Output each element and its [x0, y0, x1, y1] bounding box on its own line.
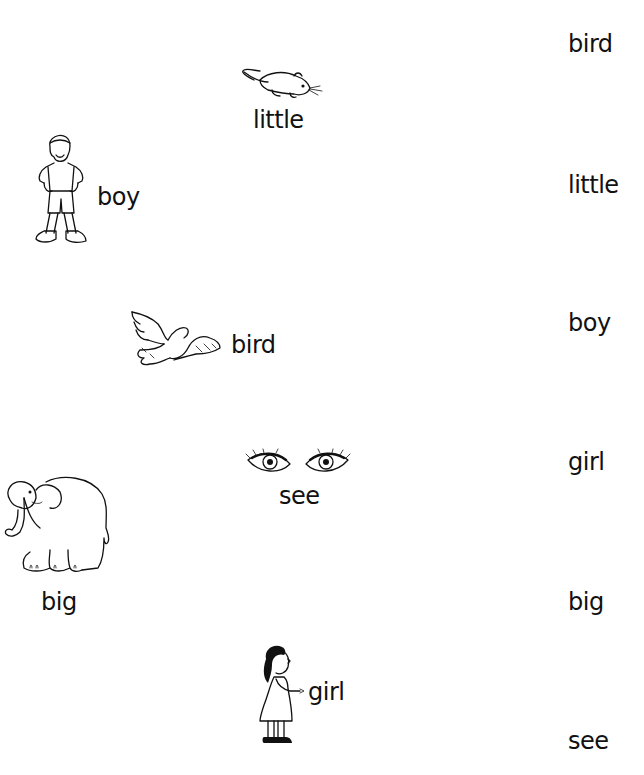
match-word-girl[interactable]: girl [568, 450, 604, 474]
match-word-see[interactable]: see [568, 729, 609, 753]
girl-picture [256, 645, 306, 747]
boy-icon [32, 133, 90, 245]
word-girl: girl [308, 680, 344, 704]
word-little: little [253, 108, 304, 132]
match-word-bird[interactable]: bird [568, 32, 613, 56]
bird-picture [130, 308, 222, 368]
match-word-big[interactable]: big [568, 590, 604, 614]
elephant-picture [2, 476, 112, 576]
bird-icon [130, 308, 222, 368]
word-bird: bird [231, 333, 276, 357]
word-big: big [41, 590, 77, 614]
match-word-little[interactable]: little [568, 173, 619, 197]
mouse-picture [238, 66, 322, 104]
word-see: see [279, 484, 320, 508]
eyes-picture [246, 450, 350, 478]
mouse-icon [238, 66, 322, 104]
word-boy: boy [97, 185, 140, 209]
boy-picture [32, 133, 90, 245]
match-word-boy[interactable]: boy [568, 311, 611, 335]
elephant-icon [2, 476, 112, 576]
eyes-icon [246, 450, 350, 478]
girl-icon [256, 645, 306, 747]
